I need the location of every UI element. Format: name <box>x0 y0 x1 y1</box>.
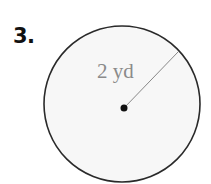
circle-figure: 2 yd <box>0 0 211 184</box>
center-point <box>121 105 128 112</box>
circle-outline <box>44 26 200 182</box>
radius-label: 2 yd <box>97 59 134 83</box>
